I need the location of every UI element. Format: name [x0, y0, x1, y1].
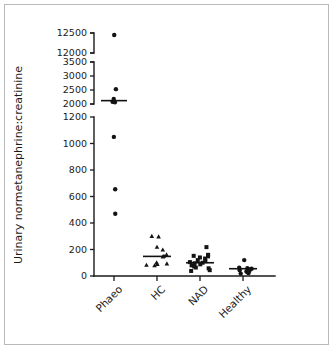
- y-tick-label-400: 400: [69, 217, 87, 228]
- data-point-healthy-10: [246, 271, 250, 275]
- y-tick-label-0: 0: [81, 270, 87, 281]
- data-point-nad-16: [208, 268, 212, 272]
- y-tick-label-2000: 2000: [63, 98, 87, 109]
- data-point-phaeo-7: [113, 212, 117, 216]
- data-point-nad-2: [192, 254, 196, 258]
- data-point-hc-2: [155, 245, 160, 249]
- data-point-hc-8: [165, 261, 170, 265]
- x-tick-label-healthy: Healthy: [216, 283, 253, 320]
- data-point-hc-1: [156, 234, 161, 238]
- data-point-hc-10: [144, 263, 149, 267]
- y-axis-title: Urinary normetanephrine:creatinine: [12, 66, 25, 264]
- y-tick-label-12500: 12500: [57, 27, 87, 38]
- data-point-nad-17: [189, 269, 193, 273]
- x-tick-label-phaeo: Phaeo: [93, 283, 124, 314]
- x-tick-label-nad: NAD: [186, 283, 211, 308]
- figure-container: 1200012500200025003000350002004006008001…: [0, 0, 333, 349]
- y-tick-label-1000: 1000: [63, 138, 87, 149]
- data-point-phaeo-0: [112, 33, 116, 37]
- scatter-plot: 1200012500200025003000350002004006008001…: [0, 0, 333, 349]
- y-tick-label-3000: 3000: [63, 70, 87, 81]
- data-point-nad-14: [194, 266, 198, 270]
- data-point-phaeo-5: [112, 135, 116, 139]
- y-tick-label-3500: 3500: [63, 56, 87, 67]
- data-point-phaeo-1: [114, 87, 118, 91]
- y-tick-label-1200: 1200: [63, 111, 87, 122]
- y-tick-label-600: 600: [69, 191, 87, 202]
- data-point-hc-0: [150, 234, 155, 238]
- y-tick-label-200: 200: [69, 244, 87, 255]
- data-point-healthy-0: [242, 258, 246, 262]
- x-tick-label-hc: HC: [148, 283, 167, 302]
- y-tick-label-2500: 2500: [63, 84, 87, 95]
- data-point-healthy-11: [239, 271, 243, 275]
- data-point-hc-3: [160, 247, 165, 251]
- data-point-nad-0: [204, 245, 208, 249]
- y-tick-label-800: 800: [69, 164, 87, 175]
- data-point-phaeo-6: [113, 187, 117, 191]
